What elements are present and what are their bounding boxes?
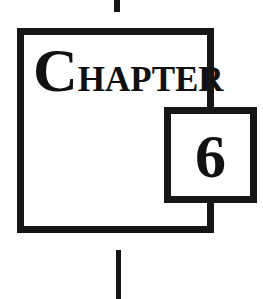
bottom-connector-line [116,250,121,299]
chapter-heading-initial: C [33,36,78,104]
top-connector-line [114,0,120,12]
chapter-heading-rest: HAPTER [78,60,224,99]
chapter-number: 6 [195,125,226,187]
chapter-heading: CHAPTER [33,39,224,101]
chapter-number-box: 6 [164,107,257,203]
